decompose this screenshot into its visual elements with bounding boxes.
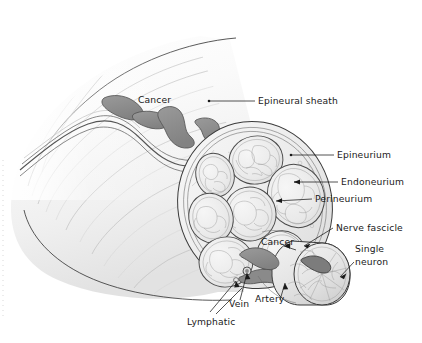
label-artery: Artery <box>255 293 285 304</box>
nerve-anatomy-figure: Epineural sheath Epineurium Endoneurium … <box>0 0 422 343</box>
label-cancer-trunk: Cancer <box>138 94 171 105</box>
label-epineurium: Epineurium <box>337 149 391 160</box>
label-nerve-fascicle: Nerve fascicle <box>336 222 403 233</box>
label-vein: Vein <box>229 298 249 309</box>
label-perineurium: Perineurium <box>315 193 372 204</box>
label-lymphatic: Lymphatic <box>187 316 236 327</box>
label-epineural-sheath: Epineural sheath <box>258 95 338 106</box>
label-single-neuron-line2: neuron <box>355 256 388 267</box>
label-single-neuron-line1: Single <box>355 243 384 254</box>
label-cancer-inset: Cancer <box>261 236 294 247</box>
nerve-illustration-svg: Epineural sheath Epineurium Endoneurium … <box>0 0 422 343</box>
label-endoneurium: Endoneurium <box>341 176 404 187</box>
